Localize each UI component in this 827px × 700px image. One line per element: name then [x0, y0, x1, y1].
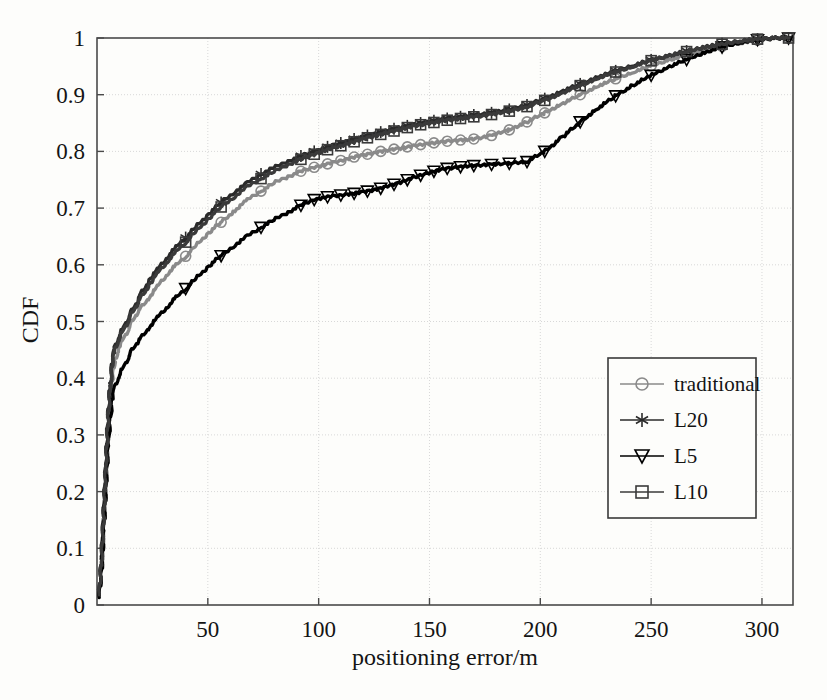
y-tick-label: 0.8: [56, 139, 85, 164]
y-tick-label: 1: [74, 26, 86, 51]
x-tick-label: 300: [745, 617, 780, 642]
y-tick-label: 0.4: [56, 366, 85, 391]
x-tick-label: 100: [301, 617, 336, 642]
chart-background: [0, 0, 827, 700]
y-tick-label: 0.9: [56, 83, 85, 108]
y-tick-label: 0.2: [56, 480, 85, 505]
legend-label: L5: [674, 444, 697, 468]
y-tick-label: 0.7: [56, 196, 85, 221]
x-tick-label: 150: [412, 617, 447, 642]
legend-label: traditional: [674, 372, 760, 396]
legend-label: L20: [674, 408, 708, 432]
x-axis-title: positioning error/m: [352, 644, 538, 670]
y-tick-label: 0.1: [56, 536, 85, 561]
y-tick-label: 0: [74, 593, 86, 618]
legend-label: L10: [674, 480, 708, 504]
chart-canvas: 50100150200250300 00.10.20.30.40.50.60.7…: [0, 0, 827, 700]
y-tick-label: 0.6: [56, 253, 85, 278]
x-tick-label: 50: [196, 617, 219, 642]
y-tick-label: 0.5: [56, 310, 85, 335]
chart-legend[interactable]: traditionalL20L5L10: [608, 358, 760, 518]
x-tick-label: 250: [634, 617, 669, 642]
y-tick-label: 0.3: [56, 423, 85, 448]
x-tick-label: 200: [523, 617, 558, 642]
cdf-chart-figure: 50100150200250300 00.10.20.30.40.50.60.7…: [0, 0, 827, 700]
y-axis-title: CDF: [17, 297, 43, 344]
